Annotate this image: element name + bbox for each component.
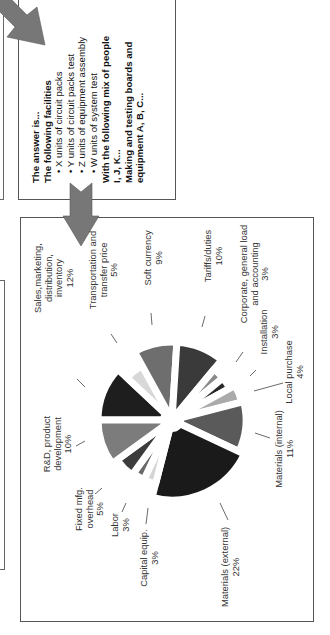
slice-label: Transportation andtransfer price5% [88, 231, 120, 309]
arrow-down-right-icon [0, 0, 45, 45]
slice-label-line: 3% [121, 513, 132, 537]
slice-label-line: Tariffs/duties [203, 230, 214, 282]
slice-label-line: Soft currency [143, 230, 154, 285]
slice-label-line: 10% [63, 416, 74, 472]
slice-label-line: R&D, product [42, 416, 53, 472]
slice-label-line: Labor [110, 513, 121, 537]
slice-label-line: Fixed mfg. [74, 487, 85, 531]
slice-label: Corporate, general loadand accounting3% [239, 225, 271, 324]
slice-label: Local purchase4% [284, 340, 305, 404]
slice-label-line: 22% [231, 527, 242, 607]
slice-label: Soft currency9% [143, 230, 164, 285]
slice-label: Installation3% [259, 310, 280, 355]
slice-label: Capital equip.3% [139, 529, 160, 586]
slice-label-line: 5% [95, 487, 106, 531]
slice-label-line: 11% [285, 410, 296, 488]
slice-label-line: 5% [109, 231, 120, 309]
slice-label-line: Local purchase [284, 340, 295, 404]
slice-label-line: 4% [295, 340, 306, 404]
slice-label-line: Corporate, general load [239, 225, 250, 324]
slice-label-line: 3% [260, 225, 271, 324]
slice-label: Materials (internal)11% [274, 410, 295, 488]
slice-label-line: 10% [214, 230, 225, 282]
slice-label-line: Transportation and [88, 231, 99, 309]
slice-label: Sales,marketing,distribution,inventory12… [33, 243, 75, 313]
slice-label: Tariffs/duties10% [203, 230, 224, 282]
slice-label: Fixed mfg.overhead5% [74, 487, 106, 531]
slice-label-line: Materials (external) [220, 527, 231, 607]
slice-label-line: Installation [259, 310, 270, 355]
slice-label-line: Sales,marketing, [33, 243, 44, 313]
slice-label-line: 9% [154, 230, 165, 285]
slice-label-line: 12% [65, 243, 76, 313]
slice-label-line: 3% [150, 529, 161, 586]
slice-label: R&D, productdevelopment10% [42, 416, 74, 472]
slice-label-line: 3% [270, 310, 281, 355]
slice-label-line: Materials (internal) [274, 410, 285, 488]
slice-label-line: Capital equip. [139, 529, 150, 586]
slice-label: Labor3% [110, 513, 131, 537]
slice-label: Materials (external)22% [220, 527, 241, 607]
